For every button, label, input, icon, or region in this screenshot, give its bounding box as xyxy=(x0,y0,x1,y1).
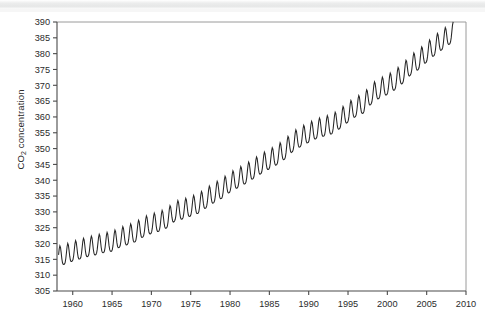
x-tick-label: 1960 xyxy=(63,299,83,309)
y-axis-label-subscript: 2 xyxy=(20,151,27,155)
plot-frame-border xyxy=(57,22,466,291)
y-tick-label: 335 xyxy=(35,191,50,201)
y-tick-label: 350 xyxy=(35,144,50,154)
y-tick-label: 320 xyxy=(35,239,50,249)
x-tick-label: 1980 xyxy=(220,299,240,309)
y-axis-label-suffix: concentration xyxy=(15,89,26,151)
y-tick-label: 365 xyxy=(35,96,50,106)
y-tick-label: 340 xyxy=(35,176,50,186)
y-axis-label-prefix: CO xyxy=(15,155,26,170)
plot-frame xyxy=(57,22,466,291)
chart-plot-area: 3053103153203253303353403453503553603653… xyxy=(0,0,485,317)
y-axis-ticks: 3053103153203253303353403453503553603653… xyxy=(35,17,57,296)
x-tick-label: 1970 xyxy=(141,299,161,309)
y-tick-label: 380 xyxy=(35,49,50,59)
co2-series-line xyxy=(59,22,454,265)
y-tick-label: 390 xyxy=(35,17,50,27)
y-tick-label: 360 xyxy=(35,112,50,122)
y-tick-label: 330 xyxy=(35,207,50,217)
y-tick-label: 305 xyxy=(35,286,50,296)
y-tick-label: 345 xyxy=(35,160,50,170)
y-tick-label: 315 xyxy=(35,255,50,265)
x-tick-label: 1975 xyxy=(180,299,200,309)
data-series-group xyxy=(59,22,454,265)
y-tick-label: 355 xyxy=(35,128,50,138)
x-tick-label: 1965 xyxy=(102,299,122,309)
y-tick-label: 310 xyxy=(35,270,50,280)
x-tick-label: 1990 xyxy=(298,299,318,309)
x-tick-label: 2005 xyxy=(416,299,436,309)
x-axis-ticks: 1960196519701975198019851990199520002005… xyxy=(63,291,477,309)
x-tick-label: 2010 xyxy=(456,299,476,309)
x-tick-label: 2000 xyxy=(377,299,397,309)
y-tick-label: 325 xyxy=(35,223,50,233)
y-tick-label: 375 xyxy=(35,65,50,75)
keeling-curve-figure: CO2 concentration 3053103153203253303353… xyxy=(0,0,485,317)
y-axis-label: CO2 concentration xyxy=(15,64,28,194)
y-tick-label: 385 xyxy=(35,33,50,43)
x-tick-label: 1985 xyxy=(259,299,279,309)
y-tick-label: 370 xyxy=(35,81,50,91)
x-tick-label: 1995 xyxy=(338,299,358,309)
